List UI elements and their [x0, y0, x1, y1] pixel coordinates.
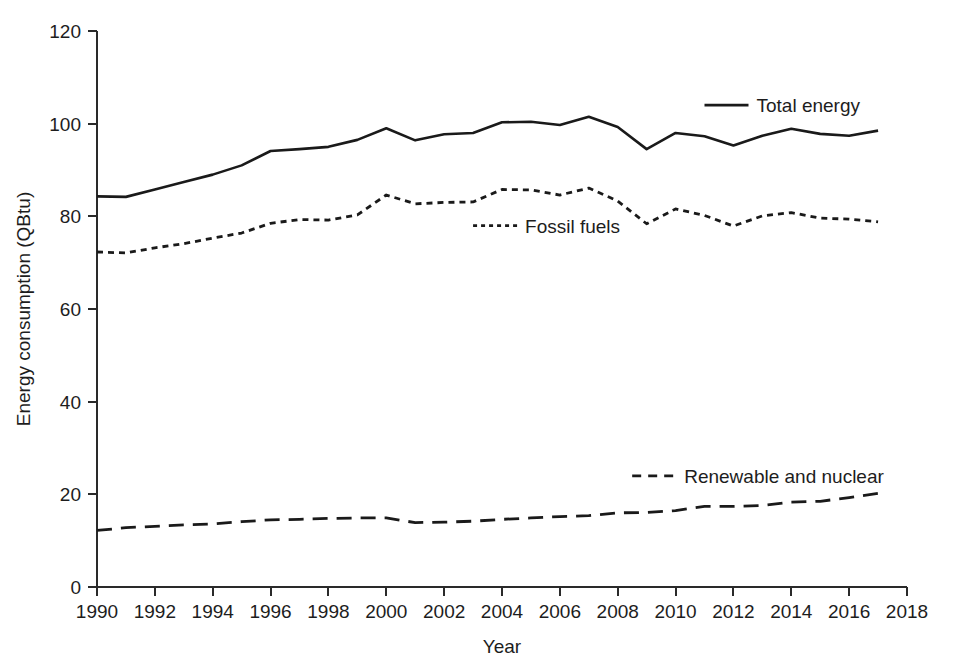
- y-tick-label-100: 100: [49, 114, 81, 135]
- x-tick-label-2002: 2002: [423, 601, 465, 622]
- y-tick-label-0: 0: [70, 577, 81, 598]
- x-axis-ticks: [97, 587, 907, 596]
- x-tick-label-2018: 2018: [886, 601, 928, 622]
- series-line-renewable-and-nuclear: [97, 493, 878, 530]
- x-tick-label-1990: 1990: [76, 601, 118, 622]
- series-line-total-energy: [97, 117, 878, 197]
- legend-item-renewable-and-nuclear: Renewable and nuclear: [632, 466, 884, 487]
- x-tick-label-1994: 1994: [192, 601, 235, 622]
- x-tick-label-1992: 1992: [134, 601, 176, 622]
- y-tick-label-20: 20: [60, 484, 81, 505]
- y-tick-label-80: 80: [60, 206, 81, 227]
- x-axis-title: Year: [483, 636, 522, 657]
- x-tick-label-2004: 2004: [481, 601, 524, 622]
- x-tick-label-1998: 1998: [307, 601, 349, 622]
- y-tick-label-120: 120: [49, 21, 81, 42]
- legend-item-fossil-fuels: Fossil fuels: [473, 216, 620, 237]
- x-tick-label-2006: 2006: [539, 601, 581, 622]
- legend-label-3: Renewable and nuclear: [684, 466, 884, 487]
- y-axis-ticks: [88, 31, 97, 587]
- x-tick-label-1996: 1996: [249, 601, 291, 622]
- x-tick-label-2016: 2016: [828, 601, 870, 622]
- x-tick-label-2012: 2012: [712, 601, 754, 622]
- y-tick-label-60: 60: [60, 299, 81, 320]
- chart-svg: 020406080100120 199019921994199619982000…: [0, 0, 953, 671]
- y-axis-tick-labels: 020406080100120: [49, 21, 81, 598]
- x-tick-label-2010: 2010: [654, 601, 696, 622]
- legend-item-total-energy: Total energy: [705, 95, 861, 116]
- x-tick-label-2000: 2000: [365, 601, 407, 622]
- energy-consumption-chart: 020406080100120 199019921994199619982000…: [0, 0, 953, 671]
- chart-legend: Total energyFossil fuelsRenewable and nu…: [473, 95, 884, 487]
- y-tick-label-40: 40: [60, 392, 81, 413]
- x-tick-label-2014: 2014: [770, 601, 813, 622]
- legend-label-2: Fossil fuels: [525, 216, 620, 237]
- y-axis-title: Energy consumption (QBtu): [13, 192, 34, 426]
- series-line-fossil-fuels: [97, 188, 878, 253]
- x-tick-label-2008: 2008: [597, 601, 639, 622]
- x-axis-tick-labels: 1990199219941996199820002002200420062008…: [76, 601, 928, 622]
- legend-label-1: Total energy: [757, 95, 861, 116]
